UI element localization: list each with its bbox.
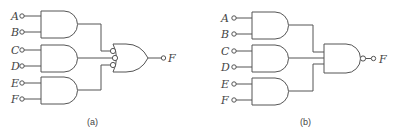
inversion-bubble-1	[110, 48, 115, 53]
diagram-b: A B C D E F	[220, 12, 387, 127]
output-terminal-a	[161, 56, 165, 60]
and-gate-3	[41, 77, 78, 104]
terminal-f	[232, 98, 236, 102]
or-gate	[113, 44, 148, 72]
caption-a: (a)	[87, 117, 98, 127]
input-terminals	[20, 14, 41, 101]
inversion-bubble-2	[112, 55, 117, 60]
input-label-f: F	[10, 93, 19, 106]
logic-diagrams: A B C D E F	[0, 0, 396, 136]
input-label-e: E	[220, 78, 229, 91]
terminal-a	[232, 16, 236, 20]
terminal-b	[232, 32, 236, 36]
output-terminal-b	[371, 56, 375, 60]
inversion-bubble-3	[110, 62, 115, 67]
inversion-bubble	[360, 56, 365, 61]
and-gate-1	[41, 11, 78, 38]
input-label-c: C	[221, 45, 230, 58]
terminal-c	[20, 48, 24, 52]
diagram-a: A B C D E F	[10, 10, 176, 127]
terminal-f	[20, 97, 24, 101]
terminal-a	[20, 14, 24, 18]
terminal-b	[20, 30, 24, 34]
input-label-a: A	[10, 10, 19, 23]
and-gate-1	[252, 12, 289, 39]
and-gate-2	[252, 45, 289, 72]
output-label-b: F	[378, 53, 387, 66]
input-label-d: D	[10, 60, 20, 73]
input-label-b: B	[10, 26, 19, 39]
output-label-a: F	[167, 52, 176, 65]
terminal-e	[232, 82, 236, 86]
terminal-d	[20, 64, 24, 68]
input-label-b: B	[220, 28, 229, 41]
input-label-a: A	[220, 12, 229, 25]
input-terminals	[232, 16, 252, 102]
terminal-c	[232, 49, 236, 53]
and-gate-2	[41, 45, 78, 72]
nand-gate	[324, 44, 361, 73]
input-label-e: E	[10, 77, 19, 90]
input-label-d: D	[220, 61, 230, 74]
terminal-e	[20, 81, 24, 85]
terminal-d	[232, 65, 236, 69]
and-gate-3	[252, 78, 289, 105]
input-label-f: F	[220, 94, 229, 107]
input-label-c: C	[11, 44, 20, 57]
caption-b: (b)	[300, 117, 311, 127]
